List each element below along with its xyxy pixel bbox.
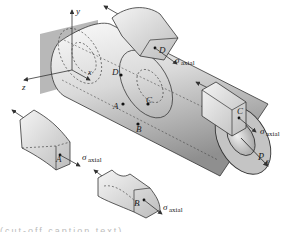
stress-element-B: B σ axial [94, 170, 183, 218]
partial-caption: (cut-off caption text) [0, 225, 290, 232]
stress-element-A: A σ axial [12, 110, 102, 170]
element-C-label: C [237, 106, 244, 116]
x-axis-label: x [87, 68, 92, 77]
point-C-label: C [146, 95, 153, 105]
element-D-stress-sub: axial [181, 59, 195, 67]
y-axis-label: y [75, 6, 80, 16]
element-A-stress-sub: axial [88, 156, 102, 164]
point-D-label: D [111, 67, 119, 77]
element-B-stress-symbol: σ [163, 202, 168, 212]
element-C-stress-sub: axial [266, 130, 280, 138]
element-A-stress-symbol: σ [82, 152, 87, 162]
element-D-stress-symbol: σ [175, 55, 180, 65]
hollow-shaft-diagram: y z x A B C D P x D σ axial C [0, 0, 290, 232]
point-A-label: A [112, 101, 119, 111]
element-B-stress-sub: axial [169, 206, 183, 214]
point-B-label: B [136, 124, 142, 134]
element-B-label: B [134, 198, 140, 208]
load-symbol: P [257, 151, 264, 162]
element-C-stress-symbol: σ [260, 126, 265, 136]
z-axis-label: z [21, 82, 26, 92]
